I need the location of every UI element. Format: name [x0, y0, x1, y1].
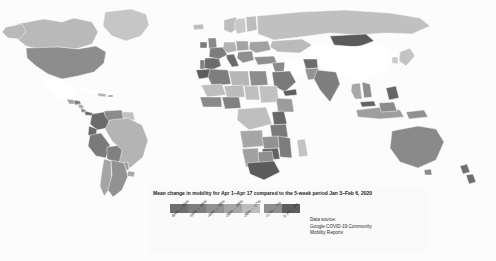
region-uruguay[interactable]	[127, 171, 135, 177]
region-tanzania[interactable]	[270, 124, 288, 138]
region-zambia[interactable]	[262, 136, 280, 149]
region-chad[interactable]	[244, 86, 260, 100]
region-angola[interactable]	[240, 130, 264, 148]
region-sudan[interactable]	[259, 86, 279, 103]
region-tasmania[interactable]	[424, 169, 432, 175]
region-borneo[interactable]	[379, 102, 397, 112]
legend-tick-labels: -64% – -55% -55% – -45% -45% – -36% -36%…	[158, 215, 318, 249]
region-mozambique[interactable]	[278, 136, 292, 158]
region-iceland[interactable]	[193, 24, 204, 30]
region-ethiopia[interactable]	[276, 98, 294, 112]
data-source-block: Data source: Google COVID-19 Community M…	[310, 217, 372, 237]
region-ireland[interactable]	[200, 42, 207, 48]
data-source-line-2: Mobility Reports	[310, 230, 372, 237]
region-guinea-coast[interactable]	[200, 97, 222, 107]
mobility-map-figure: Mean change in mobility for Apr 1–Apr 17…	[0, 0, 496, 261]
region-egypt[interactable]	[249, 71, 268, 86]
region-canada[interactable]	[15, 18, 98, 50]
region-niger[interactable]	[224, 85, 245, 98]
legend-title: Mean change in mobility for Apr 1–Apr 17…	[153, 190, 425, 197]
region-malaysia[interactable]	[360, 101, 376, 107]
region-puerto-rico[interactable]	[108, 95, 113, 97]
data-source-line-1: Google COVID-19 Community	[310, 224, 372, 231]
region-algeria[interactable]	[208, 69, 231, 86]
legend-panel: Mean change in mobility for Apr 1–Apr 17…	[148, 186, 430, 254]
region-finland[interactable]	[246, 16, 257, 32]
data-source-line-0: Data source:	[310, 217, 372, 224]
region-united-kingdom[interactable]	[208, 38, 217, 49]
region-south-korea[interactable]	[392, 57, 398, 64]
region-poland[interactable]	[236, 41, 249, 51]
region-nigeria[interactable]	[222, 97, 241, 109]
region-libya[interactable]	[229, 71, 250, 86]
